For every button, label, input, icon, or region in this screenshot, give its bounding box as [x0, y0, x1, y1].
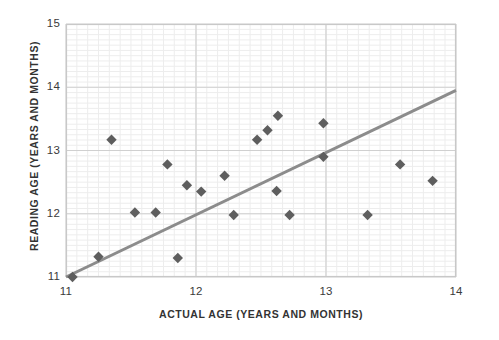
x-tick-label: 11 [46, 286, 86, 298]
data-point-marker [162, 159, 172, 169]
x-tick-label: 14 [436, 286, 476, 298]
y-tick-label: 12 [20, 208, 60, 220]
data-point-marker [229, 210, 239, 220]
data-point-marker [130, 207, 140, 217]
x-tick-label: 12 [176, 286, 216, 298]
data-point-marker [262, 125, 272, 135]
trendline [66, 90, 456, 277]
data-point-marker [151, 207, 161, 217]
data-point-marker [362, 210, 372, 220]
y-tick-label: 14 [20, 81, 60, 93]
data-point-marker [395, 159, 405, 169]
y-tick-label: 11 [20, 271, 60, 283]
scatter-chart: READING AGE (YEARS AND MONTHS) 111213141… [0, 0, 499, 340]
data-point-marker [173, 253, 183, 263]
data-point-marker [318, 118, 328, 128]
x-axis-tick-labels: 11121314 [66, 286, 456, 302]
data-point-marker [182, 180, 192, 190]
x-axis-label: ACTUAL AGE (YEARS AND MONTHS) [66, 308, 456, 320]
y-axis-tick-labels: 1112131415 [16, 24, 60, 277]
data-point-marker [427, 176, 437, 186]
plot-area [66, 24, 456, 277]
data-layer [66, 24, 456, 277]
data-point-marker [273, 111, 283, 121]
y-tick-label: 13 [20, 145, 60, 157]
data-point-marker [106, 135, 116, 145]
x-tick-label: 13 [306, 286, 346, 298]
data-point-marker [284, 210, 294, 220]
data-point-marker [252, 135, 262, 145]
data-point-marker [219, 171, 229, 181]
data-point-marker [196, 186, 206, 196]
data-point-marker [271, 186, 281, 196]
y-tick-label: 15 [20, 18, 60, 30]
